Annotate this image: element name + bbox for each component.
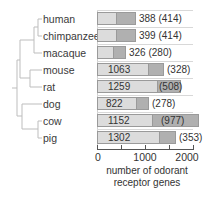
bar-pig: 1302 <box>97 131 176 144</box>
bar-value-functional: 1259 <box>108 80 130 93</box>
bar-value-pseudogene: (508) <box>159 80 182 93</box>
species-label-dog: dog <box>43 98 61 110</box>
bar-segment-pseudogene: (508) <box>157 80 181 93</box>
bar-value-functional: 1063 <box>108 63 130 76</box>
x-tick-label-2000: 2000 <box>175 151 198 163</box>
bar-segment-functional: 1302 <box>97 131 159 144</box>
bar-label-pseudo-dog: (278) <box>152 97 175 110</box>
bar-value-functional: 822 <box>106 97 123 110</box>
x-tick <box>97 145 98 149</box>
x-tick-label-1000: 1000 <box>133 151 156 163</box>
x-tick-label-0: 0 <box>95 151 101 163</box>
bar-segment-functional <box>97 12 116 25</box>
bar-mouse: 1063 <box>97 63 164 76</box>
bar-value-pseudogene: (977) <box>161 114 184 127</box>
bar-segment-pseudogene <box>113 46 126 59</box>
row-divider <box>97 10 193 11</box>
species-label-cow: cow <box>43 115 62 127</box>
bar-value-functional: 1152 <box>108 114 130 127</box>
row-divider <box>97 95 193 96</box>
x-tick <box>145 145 146 149</box>
bar-value-functional: 1302 <box>108 131 130 144</box>
bar-human <box>97 12 136 25</box>
bar-segment-pseudogene <box>148 63 164 76</box>
bar-cow: 1152 (977) <box>97 114 199 127</box>
species-label-macaque: macaque <box>43 47 86 59</box>
bar-macaque <box>97 46 126 59</box>
bar-segment-pseudogene <box>159 131 176 144</box>
row-divider <box>97 44 193 45</box>
bar-segment-functional <box>97 29 116 42</box>
x-axis-title-line2: receptor genes <box>97 177 197 189</box>
bar-segment-pseudogene: (977) <box>152 114 199 127</box>
bar-label-pseudo-mouse: (328) <box>167 63 190 76</box>
x-axis-title-line1: number of odorant <box>97 165 197 177</box>
bar-segment-pseudogene <box>116 12 136 25</box>
bar-segment-functional: 822 <box>97 97 136 110</box>
species-label-mouse: mouse <box>43 64 75 76</box>
bar-label-human: 388 (414) <box>139 12 182 25</box>
bar-rat: 1259 (508) <box>97 80 181 93</box>
bar-chimpanzee <box>97 29 136 42</box>
x-axis-title: number of odorant receptor genes <box>97 165 197 189</box>
bar-dog: 822 <box>97 97 149 110</box>
row-divider <box>97 61 193 62</box>
x-tick <box>193 145 194 149</box>
row-divider <box>97 129 193 130</box>
row-divider <box>97 112 193 113</box>
bar-plot-area: 388 (414) 399 (414) 326 (280) 1063 (328)… <box>97 0 203 160</box>
bar-segment-functional: 1152 <box>97 114 152 127</box>
species-label-human: human <box>43 13 75 25</box>
bar-segment-pseudogene <box>136 97 149 110</box>
bar-segment-functional <box>97 46 113 59</box>
row-divider <box>97 27 193 28</box>
bar-segment-functional: 1259 <box>97 80 157 93</box>
bar-label-chimpanzee: 399 (414) <box>139 29 182 42</box>
row-divider <box>97 78 193 79</box>
bar-segment-functional: 1063 <box>97 63 148 76</box>
species-label-chimpanzee: chimpanzee <box>43 30 100 42</box>
species-label-pig: pig <box>43 132 57 144</box>
x-axis-line <box>97 149 194 150</box>
bar-segment-pseudogene <box>116 29 136 42</box>
bar-label-macaque: 326 (280) <box>129 46 172 59</box>
x-tick-minor <box>121 145 122 149</box>
species-label-rat: rat <box>43 81 55 93</box>
bar-label-pseudo-pig: (353) <box>179 131 202 144</box>
x-tick-minor <box>169 145 170 149</box>
